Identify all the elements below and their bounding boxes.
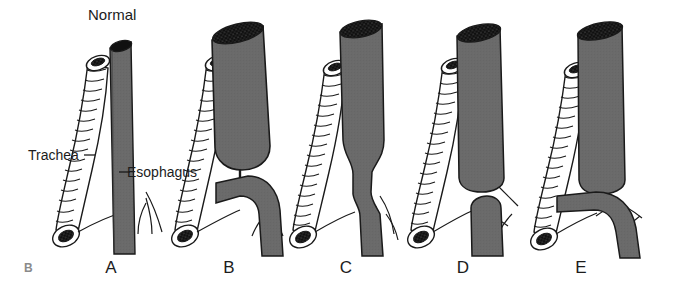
annotation-label-trachea: Trachea [28, 148, 79, 162]
panel-letter-b: B [217, 258, 241, 278]
panel-letter-e: E [569, 258, 593, 278]
upper-esophageal-pouch-e [576, 18, 625, 194]
upper-esophageal-segment-d [456, 21, 504, 192]
figure-part-label: B [24, 261, 33, 275]
panel-letter-a: A [99, 258, 123, 278]
annotation-label-esophagus: Esophagus [127, 165, 197, 179]
esophagus-a [109, 38, 135, 254]
medical-figure: Normal Trachea Esophagus B A B C D E [0, 0, 673, 296]
lower-esophageal-segment-d [471, 196, 503, 256]
figure-title-normal: Normal [88, 7, 136, 22]
panel-letter-d: D [451, 258, 475, 278]
esophageal-pouch-b [211, 18, 270, 170]
anatomy-illustration [0, 0, 673, 296]
panel-letter-c: C [334, 258, 358, 278]
